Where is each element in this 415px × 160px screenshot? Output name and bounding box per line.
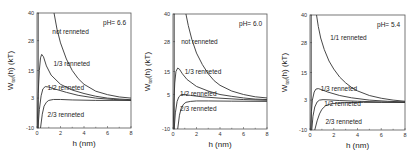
curve-1-2-renneted [38, 87, 131, 128]
ph-annotation: pH= 6.0 [239, 20, 262, 28]
x-tick-label: 6 [106, 130, 109, 136]
y-axis-title: Wtot(h) (kT) [280, 52, 290, 92]
series-label-2-3-renneted: 2/3 renneted [180, 105, 217, 112]
x-tick-label: 0 [308, 132, 311, 138]
x-tick-label: 2 [332, 132, 335, 138]
y-axis-title: Wtot(h) (kT) [143, 51, 153, 91]
x-tick-label: 0 [171, 131, 174, 137]
y-tick-label: 28 [28, 38, 34, 44]
y-tick-label: 15 [164, 69, 170, 75]
series-label-not-renneted: not renneted [52, 28, 89, 35]
series-label-1-3-renneted: 1/3 renneted [321, 85, 358, 92]
x-tick-label: 8 [129, 130, 132, 136]
y-axis-title: Wtot(h) (kT) [6, 50, 16, 90]
y-tick-label: 40 [164, 11, 170, 17]
series-label-1-1-renneted: 1/1 renneted [330, 34, 367, 41]
y-tick-label: 28 [164, 39, 170, 45]
x-tick-label: 2 [59, 130, 62, 136]
x-tick-label: 8 [403, 132, 406, 138]
y-tick-label: 28 [301, 40, 307, 46]
series-label-not-renneted: not renneted [181, 38, 218, 45]
x-axis-title: h (nm) [346, 141, 369, 150]
y-tick-label: 5 [167, 92, 170, 98]
y-tick-label: 3 [31, 95, 34, 101]
plot-frame [310, 15, 405, 130]
x-tick-label: 6 [380, 132, 383, 138]
x-tick-label: 4 [82, 130, 85, 136]
series-label-1-2-renneted: 1/2 renneted [324, 100, 361, 107]
series-label-1-2-renneted: 1/2 renneted [180, 90, 217, 97]
y-tick-label: 15 [28, 68, 34, 74]
x-tick-label: 8 [265, 131, 268, 137]
y-tick-label: -10 [299, 127, 307, 133]
series-label-2-3-renneted: 2/3 renneted [48, 111, 85, 118]
curve-1-2-renneted [174, 95, 267, 130]
y-tick-label: 40 [28, 10, 34, 16]
y-tick-label: 40 [301, 12, 307, 18]
x-axis-title: h (nm) [208, 140, 231, 149]
series-label-1-3-renneted: 1/3 renneted [53, 60, 90, 67]
x-tick-label: 6 [242, 131, 245, 137]
ph-annotation: pH= 6.6 [103, 19, 126, 27]
y-tick-label: 3 [304, 97, 307, 103]
panel-ph-5-4: 4028153-1002468h (nm)Wtot(h) (kT)1/1 ren… [280, 12, 407, 150]
panel-ph-6-6: 4028153-1002468h (nm)Wtot(h) (kT)not ren… [6, 10, 133, 148]
series-label-2-3-renneted: 2/3 renneted [325, 118, 362, 125]
figure: 4028153-1002468h (nm)Wtot(h) (kT)not ren… [0, 0, 415, 160]
series-label-1-2-renneted: 1/2 renneted [48, 84, 85, 91]
panel-ph-6-0: 4028155-1002468h (nm)Wtot(h) (kT)not ren… [143, 11, 269, 149]
x-tick-label: 4 [218, 131, 221, 137]
x-tick-label: 0 [35, 130, 38, 136]
x-tick-label: 2 [195, 131, 198, 137]
x-axis-title: h (nm) [72, 139, 95, 148]
y-tick-label: -10 [26, 125, 34, 131]
ph-annotation: pH= 5.4 [377, 21, 400, 29]
y-tick-label: -10 [162, 126, 170, 132]
series-label-1-3-renneted: 1/3 renneted [185, 68, 222, 75]
y-tick-label: 15 [301, 70, 307, 76]
x-tick-label: 4 [356, 132, 359, 138]
